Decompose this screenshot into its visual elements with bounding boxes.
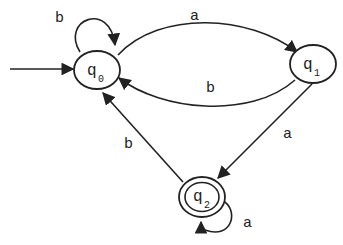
edge-label-q0-q0: b <box>55 10 64 27</box>
edge-q0-q1 <box>118 23 297 55</box>
edge-label-q2-q0: b <box>124 136 133 153</box>
edge-label-q1-q0: b <box>206 80 215 97</box>
edge-label-q0-q1: a <box>190 8 199 25</box>
state-q0: q 0 <box>74 51 120 89</box>
edge-label-q1-q2: a <box>283 126 292 143</box>
svg-text:1: 1 <box>314 68 320 79</box>
edge-q2-q0 <box>103 93 183 182</box>
svg-text:2: 2 <box>204 200 210 211</box>
state-q1: q 1 <box>290 45 336 83</box>
edge-label-q2-q2: a <box>243 215 252 232</box>
svg-text:0: 0 <box>98 74 104 85</box>
state-q2-accepting: q 2 <box>179 177 225 217</box>
svg-text:q: q <box>193 188 203 206</box>
dfa-diagram: b a b a b a q 0 q 1 q 2 <box>0 0 343 245</box>
edge-q0-q0 <box>75 19 115 52</box>
svg-text:q: q <box>87 62 97 80</box>
svg-text:q: q <box>303 56 313 74</box>
